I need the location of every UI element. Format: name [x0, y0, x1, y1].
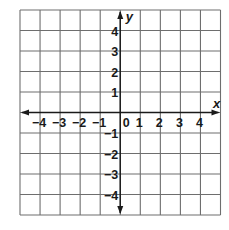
axes: [21, 11, 220, 214]
y-axis-down-arrow-icon: [117, 206, 123, 214]
y-tick-label: −3: [104, 168, 118, 182]
y-tick-label: −1: [104, 127, 118, 141]
x-tick-label: −3: [52, 116, 66, 130]
y-tick-label: −4: [104, 189, 118, 203]
x-axis-left-arrow-icon: [21, 110, 29, 116]
y-tick-label: 4: [111, 25, 118, 39]
y-axis-name: y: [125, 9, 134, 24]
x-tick-label: 1: [136, 116, 143, 130]
y-tick-label: −2: [104, 148, 118, 162]
x-axis-name: x: [212, 96, 221, 111]
x-tick-label: 0: [123, 116, 130, 130]
y-tick-label: 2: [111, 66, 118, 80]
coordinate-plane: −4−3−2−1012344321−1−2−3−4xy: [0, 0, 229, 230]
x-tick-label: 2: [156, 116, 163, 130]
y-axis-up-arrow-icon: [117, 11, 123, 19]
x-tick-label: −4: [32, 116, 46, 130]
y-tick-label: 3: [111, 45, 118, 59]
x-tick-label: 3: [176, 116, 183, 130]
y-tick-label: 1: [111, 86, 118, 100]
x-tick-label: −2: [72, 116, 86, 130]
x-tick-label: 4: [196, 116, 203, 130]
